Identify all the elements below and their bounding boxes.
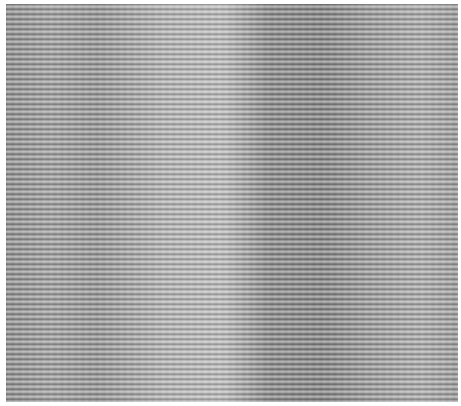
striped-texture-image <box>6 4 458 402</box>
